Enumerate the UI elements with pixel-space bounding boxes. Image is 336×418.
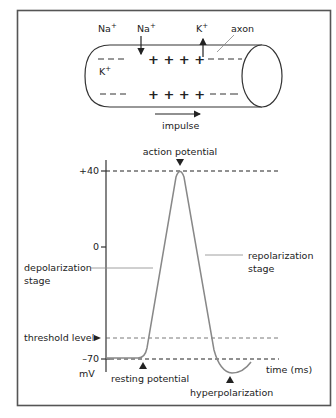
positive-charges-bottom: + + + + bbox=[148, 87, 205, 102]
action-potential-chart: +40 0 –70 mV action potential depolariza… bbox=[24, 146, 313, 398]
depolarization-label-line1: depolarization bbox=[24, 262, 92, 273]
threshold-marker-icon bbox=[94, 335, 101, 341]
axon-diagram: + + + + + + + + Na+ Na+ K+ K+ axon impul… bbox=[85, 22, 282, 131]
y-tick-label-plus40: +40 bbox=[79, 165, 99, 176]
x-axis-label: time (ms) bbox=[266, 364, 312, 375]
na-ion-label-left: Na+ bbox=[98, 22, 117, 34]
action-potential-curve bbox=[106, 172, 251, 374]
depolarization-label-line2: stage bbox=[24, 275, 51, 286]
repolarization-label-line2: stage bbox=[248, 263, 275, 274]
na-ion-label-inflow: Na+ bbox=[137, 22, 156, 34]
axon-label: axon bbox=[231, 23, 254, 34]
hyperpolarization-label: hyperpolarization bbox=[190, 387, 273, 398]
y-axis-unit-label: mV bbox=[79, 368, 95, 379]
y-tick-label-zero: 0 bbox=[93, 241, 99, 252]
action-potential-figure: + + + + + + + + Na+ Na+ K+ K+ axon impul… bbox=[0, 0, 336, 418]
hyperpolarization-marker-icon bbox=[226, 376, 234, 383]
axon-leader-line bbox=[217, 35, 234, 52]
impulse-label: impulse bbox=[162, 120, 200, 131]
resting-potential-label: resting potential bbox=[111, 373, 189, 384]
figure-frame bbox=[18, 11, 331, 406]
y-tick-label-minus70: –70 bbox=[82, 353, 99, 364]
k-ion-label-outflow: K+ bbox=[196, 22, 208, 34]
k-ion-label-inside: K+ bbox=[99, 65, 111, 77]
action-potential-marker-icon bbox=[176, 159, 184, 166]
threshold-level-label: threshold level bbox=[24, 332, 94, 343]
positive-charges-top: + + + + bbox=[148, 52, 205, 67]
action-potential-label: action potential bbox=[143, 146, 218, 157]
repolarization-label-line1: repolarization bbox=[248, 250, 313, 261]
axon-end-ellipse bbox=[242, 45, 282, 107]
resting-potential-marker-icon bbox=[139, 362, 147, 369]
